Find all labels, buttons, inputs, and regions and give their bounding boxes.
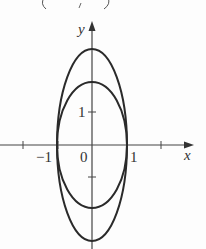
x-axis-label: x — [183, 147, 191, 163]
ellipse-diagram: y x −1 0 1 1 — [0, 0, 206, 249]
header-fragment — [42, 0, 109, 9]
origin-label: 0 — [80, 149, 88, 165]
y-axis-label: y — [76, 21, 85, 37]
x-tick-label-neg1: −1 — [36, 149, 52, 165]
x-axis — [0, 141, 194, 149]
y-axis-arrow-icon — [89, 21, 96, 31]
y-axis — [88, 21, 96, 249]
x-tick-label-1: 1 — [130, 149, 138, 165]
y-tick-label-1: 1 — [78, 104, 86, 120]
